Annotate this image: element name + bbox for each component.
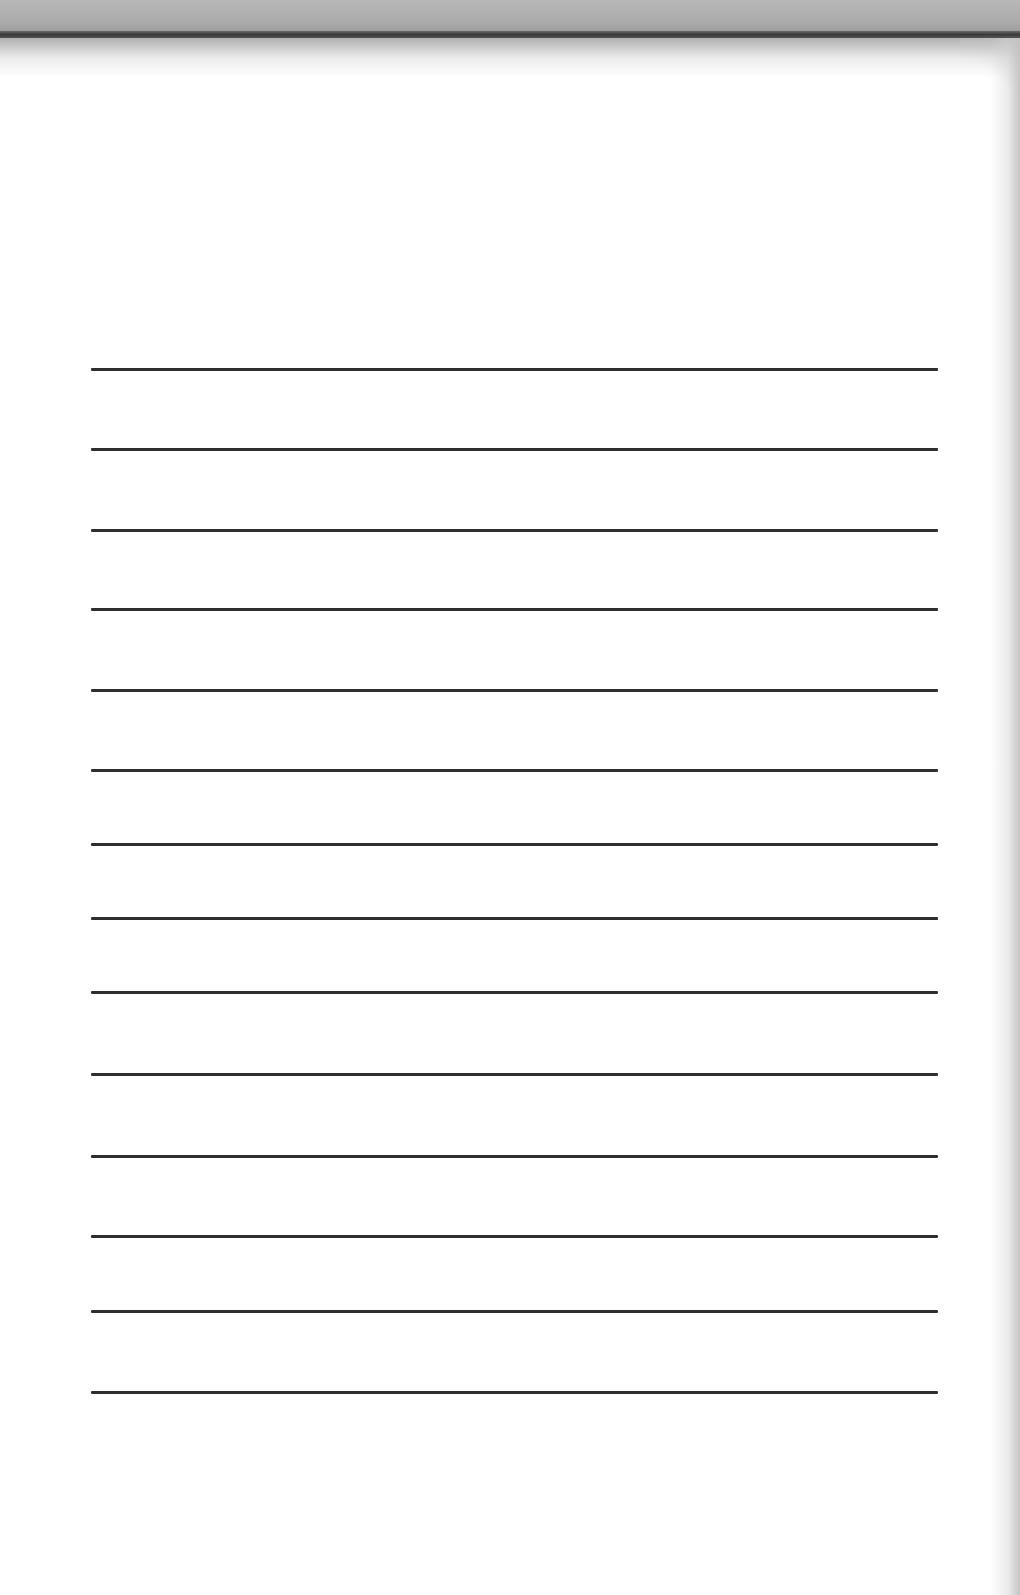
notepad-binding <box>0 0 1020 33</box>
ruled-line <box>91 917 938 920</box>
ruled-line <box>91 608 938 611</box>
ruled-line <box>91 1073 938 1076</box>
page-corner-shadow <box>960 38 1020 118</box>
ruled-line <box>91 843 938 846</box>
ruled-line <box>91 991 938 994</box>
ruled-line <box>91 1310 938 1313</box>
ruled-line <box>91 368 938 371</box>
binding-shadow <box>0 38 1020 78</box>
ruled-line <box>91 689 938 692</box>
notepad-page <box>0 0 1020 1595</box>
page-edge-shadow <box>990 38 1020 1595</box>
ruled-line <box>91 769 938 772</box>
ruled-line <box>91 1391 938 1394</box>
ruled-line <box>91 529 938 532</box>
ruled-line <box>91 1155 938 1158</box>
ruled-line <box>91 1235 938 1238</box>
ruled-line <box>91 448 938 451</box>
binding-edge <box>0 31 1020 38</box>
